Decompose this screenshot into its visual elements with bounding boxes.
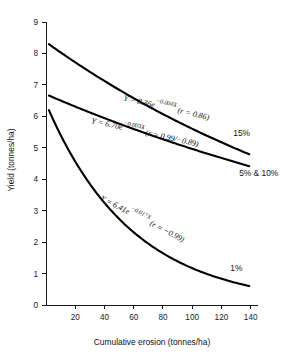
y-tick-label: 2 bbox=[33, 238, 38, 247]
y-tick-label: 5 bbox=[33, 144, 38, 153]
series-label-1: 15% bbox=[233, 128, 250, 138]
y-tick-label: 8 bbox=[33, 49, 38, 58]
y-tick-label: 9 bbox=[33, 18, 38, 27]
axis-ticks bbox=[42, 22, 251, 309]
x-tick-label: 120 bbox=[215, 313, 229, 322]
x-tick-label: 140 bbox=[244, 313, 258, 322]
equation-labels: Y = 8.36e−0.004X (r = 0.86)Y = 6.70e−0.0… bbox=[91, 90, 212, 244]
y-tick-label: 4 bbox=[33, 175, 38, 184]
yield-erosion-chart: 0123456789 20406080100120140 Y = 8.36e−0… bbox=[0, 0, 287, 355]
x-tick-label: 60 bbox=[129, 313, 139, 322]
y-tick-label: 1 bbox=[33, 270, 38, 279]
y-tick-label: 7 bbox=[33, 81, 38, 90]
y-tick-label: 3 bbox=[33, 207, 38, 216]
x-axis-title: Cumulative erosion (tonnes/ha) bbox=[94, 337, 211, 347]
x-tick-label: 100 bbox=[185, 313, 199, 322]
data-curves bbox=[49, 44, 249, 286]
series-label-2: 5% & 10% bbox=[239, 168, 279, 178]
y-axis-title: Yield (tonnes/ha) bbox=[6, 128, 16, 191]
x-tick-label: 40 bbox=[100, 313, 110, 322]
y-tick-label: 6 bbox=[33, 112, 38, 121]
x-axis-tick-labels: 20406080100120140 bbox=[71, 313, 258, 322]
equation-label-series-3: Y = 6.41e−0.017X (r = −0.99) bbox=[99, 191, 188, 244]
x-tick-label: 20 bbox=[71, 313, 81, 322]
x-tick-label: 80 bbox=[158, 313, 168, 322]
y-tick-label: 0 bbox=[33, 301, 38, 310]
y-axis-tick-labels: 0123456789 bbox=[33, 18, 38, 310]
series-label-3: 1% bbox=[230, 263, 243, 273]
chart-figure: 0123456789 20406080100120140 Y = 8.36e−0… bbox=[0, 0, 287, 355]
